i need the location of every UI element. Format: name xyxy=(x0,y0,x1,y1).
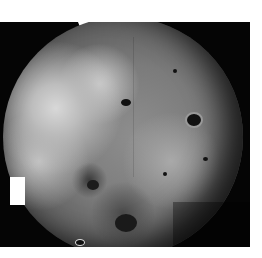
dark-spot xyxy=(173,69,177,73)
moon-photograph xyxy=(0,22,250,247)
dark-spot xyxy=(163,172,167,176)
dark-spot xyxy=(185,112,203,128)
white-patch xyxy=(10,177,25,205)
mosaic-seam xyxy=(133,37,134,177)
dark-spot xyxy=(75,239,85,246)
dark-spot xyxy=(87,180,99,190)
mosaic-seam xyxy=(173,202,250,247)
dark-spot xyxy=(115,214,137,232)
moon-disk xyxy=(3,22,243,247)
dark-spot xyxy=(203,157,208,161)
dark-spot xyxy=(121,99,131,106)
